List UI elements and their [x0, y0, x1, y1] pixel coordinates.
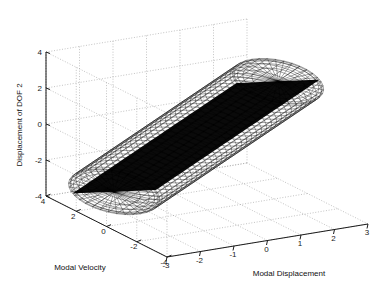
- z-tick: [46, 124, 50, 126]
- z-axis-label: Displacement of DOF 2: [15, 83, 24, 167]
- x-tick-label: -2: [196, 256, 204, 265]
- x-tick-label: -3: [162, 261, 170, 270]
- x-tick-label: -1: [229, 250, 237, 259]
- figure-canvas: -4-2024420-2-4-3-2-10123Displacement of …: [0, 0, 389, 302]
- z-tick-label: 4: [38, 48, 43, 57]
- axis-lines: [46, 52, 368, 262]
- x-tick-label: 2: [331, 234, 336, 243]
- x-tick-label: 0: [264, 245, 269, 254]
- plot-svg: -4-2024420-2-4-3-2-10123Displacement of …: [0, 0, 389, 302]
- y-axis-label: Modal Velocity: [54, 263, 106, 272]
- z-tick-label: 0: [38, 120, 43, 129]
- z-tick-label: 2: [38, 84, 43, 93]
- z-tick: [46, 52, 50, 54]
- x-tick-label: 1: [298, 239, 303, 248]
- z-tick-label: -2: [35, 156, 43, 165]
- y-tick-label: 4: [41, 197, 46, 206]
- z-tick: [46, 88, 50, 90]
- x-tick-label: 3: [365, 228, 370, 237]
- surface-mesh: [69, 58, 324, 214]
- x-axis-label: Modal Displacement: [253, 269, 326, 278]
- y-tick: [107, 225, 112, 227]
- y-tick: [46, 194, 51, 196]
- y-tick: [137, 240, 142, 242]
- y-tick-label: 2: [71, 212, 76, 221]
- y-tick-label: -2: [130, 242, 138, 251]
- y-tick-label: 0: [101, 227, 106, 236]
- z-tick: [46, 160, 50, 162]
- y-tick: [76, 209, 81, 211]
